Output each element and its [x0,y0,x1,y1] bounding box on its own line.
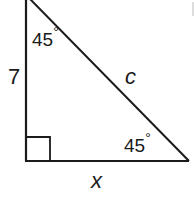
top-angle-label: 45° [32,24,59,50]
vertical-leg-label: 7 [8,64,20,89]
triangle-diagram: 45° 7 c 45° x [0,0,194,215]
horizontal-leg-label: x [90,168,103,193]
hypotenuse-label: c [125,64,136,89]
bottom-angle-label: 45° [124,130,151,156]
right-angle-marker [26,137,50,161]
